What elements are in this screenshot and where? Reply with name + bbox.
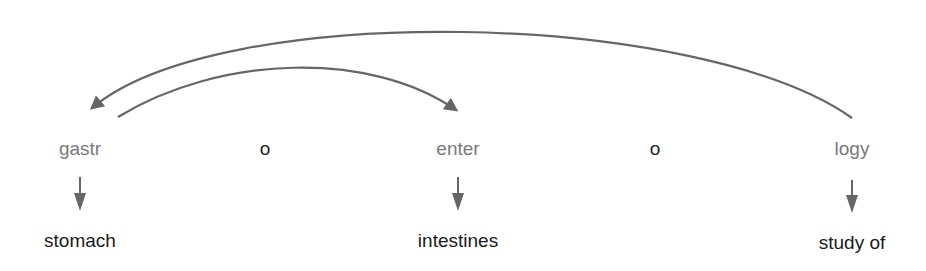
meaning-study-of: study of	[819, 231, 886, 255]
outer-arc-arrow	[92, 32, 852, 118]
word-part-logy: logy	[835, 137, 870, 161]
down-arrow-icon	[846, 180, 858, 213]
down-arrow-icon	[74, 177, 86, 211]
meaning-intestines: intestines	[418, 229, 498, 253]
word-part-enter: enter	[436, 137, 479, 161]
meaning-stomach: stomach	[44, 229, 116, 253]
combining-vowel-o: o	[650, 137, 661, 161]
combining-vowel-o: o	[260, 137, 271, 161]
word-part-diagram: gastr o enter o logy stomach intestines …	[0, 0, 926, 271]
word-part-gastr: gastr	[59, 137, 101, 161]
inner-arc-arrow	[118, 68, 456, 117]
down-arrow-icon	[452, 177, 464, 211]
